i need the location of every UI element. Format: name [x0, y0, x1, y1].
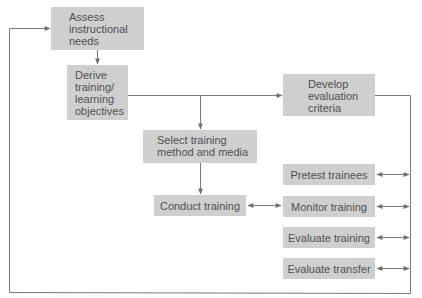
node-label: Evaluate training — [288, 232, 370, 244]
node-label: Select training method and media — [157, 134, 257, 158]
node-derive-objectives: Derive training/ learning objectives — [67, 65, 128, 120]
node-assess-instructional-needs: Assess instructional needs — [51, 7, 144, 50]
node-pretest-trainees: Pretest trainees — [283, 164, 375, 185]
node-label: Assess instructional needs — [69, 11, 144, 47]
node-label: Develop evaluation criteria — [308, 78, 375, 114]
line-develop-to-bus — [375, 96, 411, 294]
node-select-method-media: Select training method and media — [143, 130, 257, 163]
node-label: Pretest trainees — [290, 169, 367, 181]
node-label: Evaluate transfer — [287, 263, 370, 275]
node-label: Monitor training — [291, 201, 367, 213]
node-evaluate-training: Evaluate training — [283, 227, 375, 248]
node-conduct-training: Conduct training — [154, 195, 246, 216]
node-label: Conduct training — [160, 200, 240, 212]
node-evaluate-transfer: Evaluate transfer — [283, 258, 375, 279]
training-process-diagram: Assess instructional needs Derive traini… — [0, 0, 422, 298]
node-label: Derive training/ learning objectives — [75, 69, 128, 117]
node-monitor-training: Monitor training — [283, 196, 375, 217]
node-develop-evaluation-criteria: Develop evaluation criteria — [283, 74, 375, 116]
